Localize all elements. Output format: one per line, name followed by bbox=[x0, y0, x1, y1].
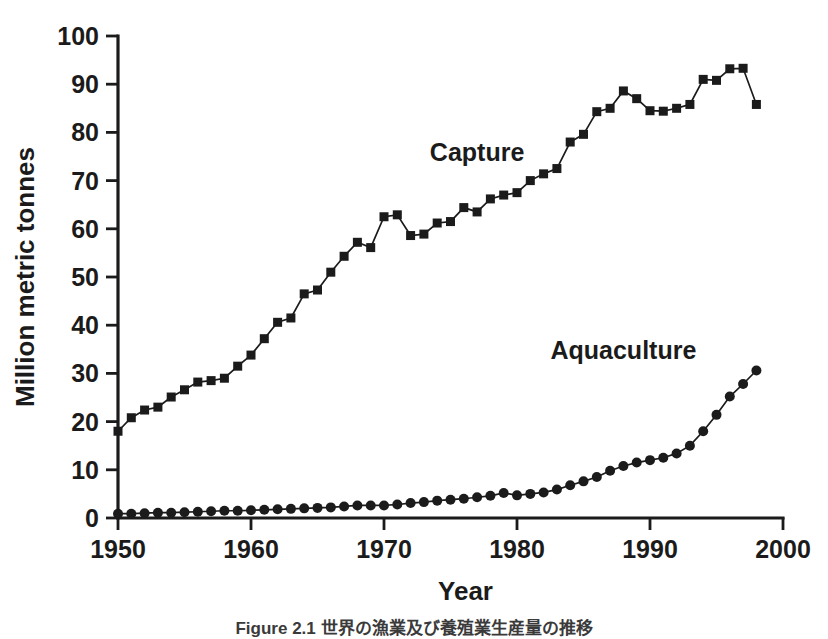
x-axis-ticks bbox=[118, 518, 783, 530]
data-point-aquaculture bbox=[685, 441, 695, 451]
data-point-capture bbox=[233, 362, 242, 371]
data-point-aquaculture bbox=[552, 485, 562, 495]
data-point-capture bbox=[260, 334, 269, 343]
data-point-aquaculture bbox=[206, 506, 216, 516]
axes-group bbox=[106, 36, 783, 530]
data-point-aquaculture bbox=[605, 466, 615, 476]
y-axis-tick-labels: 0102030405060708090100 bbox=[57, 22, 99, 532]
data-point-aquaculture bbox=[233, 506, 243, 516]
data-point-capture bbox=[685, 100, 694, 109]
data-point-aquaculture bbox=[166, 508, 176, 518]
data-point-capture bbox=[127, 413, 136, 422]
data-point-aquaculture bbox=[499, 488, 509, 498]
data-point-capture bbox=[499, 191, 508, 200]
data-point-capture bbox=[659, 107, 668, 116]
data-point-aquaculture bbox=[485, 491, 495, 501]
data-point-aquaculture bbox=[632, 458, 642, 468]
data-point-capture bbox=[193, 378, 202, 387]
data-point-capture bbox=[513, 188, 522, 197]
data-point-aquaculture bbox=[459, 494, 469, 504]
data-point-capture bbox=[446, 217, 455, 226]
y-axis-tick-label: 10 bbox=[71, 456, 99, 484]
data-point-capture bbox=[220, 374, 229, 383]
data-point-aquaculture bbox=[273, 504, 283, 514]
data-point-aquaculture bbox=[379, 500, 389, 510]
data-point-aquaculture bbox=[366, 500, 376, 510]
data-point-capture bbox=[153, 403, 162, 412]
data-point-capture bbox=[459, 203, 468, 212]
data-point-aquaculture bbox=[751, 366, 761, 376]
y-axis-tick-label: 40 bbox=[71, 311, 99, 339]
data-point-capture bbox=[247, 351, 256, 360]
x-axis-tick-label: 1990 bbox=[622, 535, 678, 563]
y-axis-tick-label: 60 bbox=[71, 215, 99, 243]
series-label-aquaculture: Aquaculture bbox=[550, 336, 696, 364]
data-point-capture bbox=[552, 164, 561, 173]
data-point-aquaculture bbox=[392, 500, 402, 510]
data-point-aquaculture bbox=[126, 509, 136, 519]
y-axis-tick-label: 50 bbox=[71, 263, 99, 291]
data-point-capture bbox=[406, 231, 415, 240]
data-point-capture bbox=[353, 238, 362, 247]
data-point-aquaculture bbox=[339, 501, 349, 511]
data-point-capture bbox=[739, 64, 748, 73]
data-point-capture bbox=[313, 286, 322, 295]
data-point-capture bbox=[273, 318, 282, 327]
data-point-capture bbox=[566, 138, 575, 147]
data-point-capture bbox=[473, 207, 482, 216]
data-point-capture bbox=[646, 106, 655, 115]
x-axis-tick-labels: 195019601970198019902000 bbox=[90, 535, 811, 563]
data-point-capture bbox=[114, 427, 123, 436]
data-point-capture bbox=[619, 86, 628, 95]
data-point-aquaculture bbox=[738, 379, 748, 389]
data-point-capture bbox=[433, 219, 442, 228]
y-axis-tick-label: 100 bbox=[57, 22, 99, 50]
y-axis-tick-label: 80 bbox=[71, 118, 99, 146]
data-point-capture bbox=[380, 212, 389, 221]
data-point-aquaculture bbox=[618, 461, 628, 471]
series-capture bbox=[114, 64, 761, 436]
data-point-capture bbox=[393, 210, 402, 219]
x-axis-title: Year bbox=[438, 576, 493, 606]
data-point-capture bbox=[725, 64, 734, 73]
data-point-capture bbox=[180, 385, 189, 394]
data-point-aquaculture bbox=[579, 476, 589, 486]
y-axis-tick-label: 0 bbox=[85, 504, 99, 532]
data-point-capture bbox=[579, 130, 588, 139]
data-point-capture bbox=[286, 313, 295, 322]
data-point-capture bbox=[366, 243, 375, 252]
data-point-aquaculture bbox=[565, 480, 575, 490]
data-point-aquaculture bbox=[153, 508, 163, 518]
data-point-capture bbox=[340, 252, 349, 261]
x-axis-tick-label: 1980 bbox=[489, 535, 545, 563]
y-axis-tick-label: 70 bbox=[71, 167, 99, 195]
data-point-capture bbox=[752, 100, 761, 109]
figure-caption: Figure 2.1 世界の漁業及び養殖業生産量の推移 bbox=[0, 614, 828, 639]
data-point-aquaculture bbox=[326, 502, 336, 512]
y-axis-tick-label: 90 bbox=[71, 70, 99, 98]
data-point-capture bbox=[672, 104, 681, 113]
data-point-capture bbox=[712, 76, 721, 85]
data-point-capture bbox=[699, 75, 708, 84]
data-point-aquaculture bbox=[592, 472, 602, 482]
series-aquaculture bbox=[113, 366, 761, 519]
x-axis-tick-label: 1970 bbox=[356, 535, 412, 563]
data-point-aquaculture bbox=[286, 504, 296, 514]
data-point-aquaculture bbox=[313, 503, 323, 513]
data-point-aquaculture bbox=[140, 508, 150, 518]
data-point-aquaculture bbox=[725, 392, 735, 402]
data-point-aquaculture bbox=[193, 507, 203, 517]
x-axis-tick-label: 1950 bbox=[90, 535, 146, 563]
data-point-capture bbox=[167, 393, 176, 402]
data-point-aquaculture bbox=[698, 426, 708, 436]
y-axis-ticks bbox=[106, 36, 118, 518]
data-point-capture bbox=[606, 104, 615, 113]
data-point-aquaculture bbox=[446, 495, 456, 505]
data-point-capture bbox=[539, 169, 548, 178]
data-point-aquaculture bbox=[219, 506, 229, 516]
data-point-aquaculture bbox=[259, 505, 269, 515]
y-axis-tick-label: 30 bbox=[71, 359, 99, 387]
y-axis-tick-label: 20 bbox=[71, 408, 99, 436]
